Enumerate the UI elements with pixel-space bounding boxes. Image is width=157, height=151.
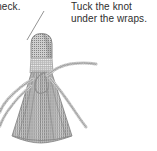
tassel-skirt (12, 72, 72, 143)
tuck-cord (47, 63, 96, 75)
caption-right-line-1: Tuck the knot (71, 1, 147, 13)
caption-right-line-2: under the wraps. (71, 13, 147, 25)
caption-right-tuck-knot: Tuck the knot under the wraps. (71, 1, 147, 25)
caption-left-neck: l neck. (0, 1, 21, 13)
head (31, 34, 52, 59)
caption-left-text: l neck. (0, 1, 21, 12)
illustration-page: l neck. Tuck the knot under the wraps. (0, 0, 157, 151)
